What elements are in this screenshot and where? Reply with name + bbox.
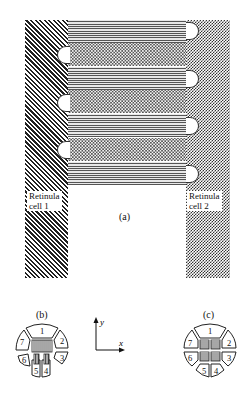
svg-text:3: 3 bbox=[227, 353, 231, 363]
panel-b-caption: (b) bbox=[36, 309, 48, 320]
svg-text:5: 5 bbox=[34, 366, 38, 376]
microvilli-band-5 bbox=[68, 114, 186, 137]
lobe-left-2 bbox=[57, 94, 70, 112]
lobe-left-3 bbox=[57, 141, 70, 159]
svg-text:7: 7 bbox=[188, 338, 192, 348]
segment-1: 1 bbox=[40, 326, 44, 336]
panel-c-caption: (c) bbox=[203, 309, 214, 320]
lobe-left-1 bbox=[57, 46, 70, 64]
label-line: Retinula bbox=[189, 191, 220, 201]
blank-region bbox=[68, 185, 186, 278]
label-line: cell 2 bbox=[189, 201, 220, 211]
svg-text:6: 6 bbox=[22, 355, 26, 365]
svg-text:2: 2 bbox=[227, 338, 231, 348]
retinula-cell-2-label: Retinula cell 2 bbox=[187, 191, 222, 211]
svg-text:2: 2 bbox=[60, 336, 64, 346]
microvilli-band-3 bbox=[68, 67, 186, 90]
microvilli-band-2 bbox=[68, 43, 186, 66]
microvilli-band-1 bbox=[68, 20, 186, 43]
y-axis-label: y bbox=[99, 317, 104, 327]
panel-c-rhabdom-diagram: 1 2 3 4 5 6 7 bbox=[180, 320, 240, 380]
svg-text:7: 7 bbox=[20, 337, 24, 347]
label-line: Retinula bbox=[29, 191, 60, 201]
svg-text:1: 1 bbox=[208, 326, 212, 336]
xy-axes-icon: y x bbox=[92, 316, 128, 356]
panel-b-rhabdom-diagram: 1 2 3 4 5 6 7 bbox=[12, 320, 72, 380]
microvilli-band-7 bbox=[68, 162, 186, 185]
retinula-cell-1-label: Retinula cell 1 bbox=[27, 191, 62, 211]
label-line: cell 1 bbox=[29, 201, 60, 211]
microvilli-band-6 bbox=[68, 138, 186, 161]
retinula-cell-2-column bbox=[186, 20, 230, 278]
svg-text:3: 3 bbox=[60, 353, 64, 363]
svg-text:5: 5 bbox=[202, 366, 206, 376]
microvilli-band-4 bbox=[68, 90, 186, 113]
panel-a-caption: (a) bbox=[119, 211, 130, 222]
x-axis-label: x bbox=[118, 338, 123, 348]
svg-text:6: 6 bbox=[188, 353, 192, 363]
